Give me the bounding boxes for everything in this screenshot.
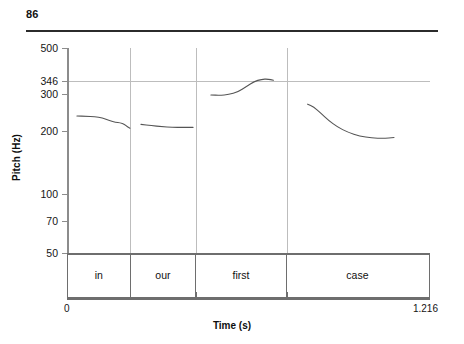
x-tick-boundary-3 [287,292,288,299]
x-tick-start [67,292,68,299]
word-cell-case[interactable]: case [287,253,428,297]
y-tick-500 [62,48,67,49]
word-label-first: first [233,269,250,281]
y-tick-70 [62,221,67,222]
page-root: 86 500 346 300 200 100 70 50 Pitch (Hz) [0,0,464,344]
pitch-contour-our [141,124,193,127]
x-tick-boundary-2 [196,292,197,299]
y-tick-label-346: 346 [22,75,58,87]
y-tick-100 [62,194,67,195]
y-tick-346 [62,81,67,82]
word-cell-in[interactable]: in [68,253,131,297]
y-tick-label-70: 70 [22,215,58,227]
pitch-contour-in [77,116,130,128]
word-cell-first[interactable]: first [196,253,287,297]
y-tick-200 [62,131,67,132]
pitch-contour-case [308,104,394,138]
y-axis-title: Pitch (Hz) [11,123,22,193]
word-cell-our[interactable]: our [131,253,197,297]
y-tick-300 [62,94,67,95]
y-tick-label-50: 50 [22,247,58,259]
word-label-case: case [346,269,368,281]
y-tick-label-300: 300 [22,88,58,100]
y-tick-label-500: 500 [22,42,58,54]
word-label-in: in [95,269,103,281]
x-tick-label-min: 0 [64,303,70,314]
word-tier: in our first case [67,253,430,298]
y-tick-label-200: 200 [22,125,58,137]
x-axis-title: Time (s) [0,320,464,331]
x-axis-line [67,298,430,300]
pitch-contour-first [211,79,274,95]
word-label-our: our [155,269,170,281]
x-tick-label-max: 1.216 [404,303,438,314]
x-tick-boundary-1 [130,292,131,299]
pitch-contour-figure: 500 346 300 200 100 70 50 Pitch (Hz) in … [0,0,464,344]
y-tick-label-100: 100 [22,188,58,200]
pitch-contour-traces [68,48,430,253]
x-tick-end [429,292,430,299]
